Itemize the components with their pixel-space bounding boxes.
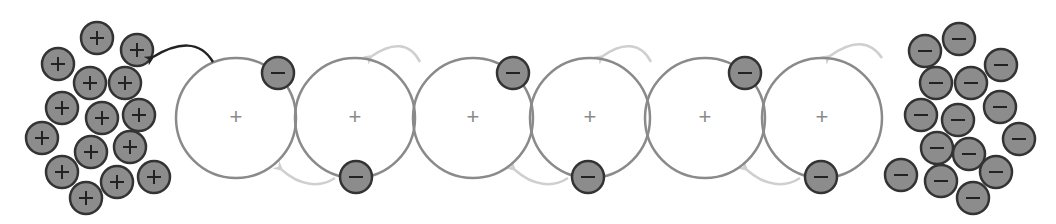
- nucleus-plus-sign: +: [584, 104, 597, 129]
- negative-particle: −: [980, 156, 1012, 188]
- negative-particle: −: [1003, 123, 1035, 155]
- negative-particle: −: [925, 165, 957, 197]
- nucleus-plus-sign: +: [349, 104, 362, 129]
- atom-chain: +−+−+−+−+−+−: [176, 57, 882, 193]
- light-arrow-icon: [747, 170, 800, 184]
- atom-5: +−: [645, 57, 765, 178]
- positive-particle: +: [26, 122, 58, 154]
- nucleus-plus-sign: +: [230, 104, 243, 129]
- negative-charge-cluster: −−−−−−−−−−−−−−−: [885, 23, 1035, 214]
- diagram-canvas: +−+−+−+−+−+− +++++++++++++++ −−−−−−−−−−−…: [0, 0, 1056, 224]
- positive-particle: +: [75, 136, 107, 168]
- positive-particle: +: [74, 67, 106, 99]
- positive-particle: +: [46, 92, 78, 124]
- negative-particle: −: [985, 49, 1017, 81]
- negative-particle: −: [957, 182, 989, 214]
- electron: −: [262, 57, 294, 89]
- positive-particle: +: [81, 22, 113, 54]
- light-arrow-icon: [515, 170, 568, 184]
- electron: −: [805, 161, 837, 193]
- negative-particle: −: [955, 67, 987, 99]
- negative-particle: −: [984, 91, 1016, 123]
- light-arrow-icon: [603, 46, 651, 62]
- light-arrow-icon: [830, 44, 882, 58]
- negative-particle: −: [885, 159, 917, 191]
- atom-1: +−: [176, 57, 296, 178]
- positive-particle: +: [86, 102, 118, 134]
- atom-2: +−: [295, 58, 415, 193]
- positive-particle: +: [42, 48, 74, 80]
- positive-particle: +: [123, 99, 155, 131]
- nucleus-plus-sign: +: [816, 104, 829, 129]
- positive-particle: +: [114, 131, 146, 163]
- negative-particle: −: [943, 23, 975, 55]
- negative-particle: −: [921, 132, 953, 164]
- negative-particle: −: [909, 35, 941, 67]
- electron: −: [572, 161, 604, 193]
- positive-particle: +: [109, 67, 141, 99]
- positive-particle: +: [138, 161, 170, 193]
- atom-4: +−: [530, 58, 650, 193]
- light-arrow-icon: [372, 46, 420, 62]
- electron: −: [729, 57, 761, 89]
- positive-particle: +: [70, 182, 102, 214]
- positive-particle: +: [121, 34, 153, 66]
- dark-arrow-icon: [153, 46, 213, 62]
- atom-6: +−: [762, 58, 882, 193]
- negative-particle: −: [942, 104, 974, 136]
- electron-flow-diagram: +−+−+−+−+−+− +++++++++++++++ −−−−−−−−−−−…: [0, 0, 1056, 224]
- positive-particle: +: [101, 166, 133, 198]
- nucleus-plus-sign: +: [699, 104, 712, 129]
- dark-flow-arrow: [153, 46, 213, 62]
- positive-charge-cluster: +++++++++++++++: [26, 22, 170, 214]
- electron: −: [340, 161, 372, 193]
- electron: −: [497, 57, 529, 89]
- negative-particle: −: [905, 99, 937, 131]
- nucleus-plus-sign: +: [467, 104, 480, 129]
- negative-particle: −: [920, 67, 952, 99]
- positive-particle: +: [46, 156, 78, 188]
- atom-3: +−: [413, 57, 533, 178]
